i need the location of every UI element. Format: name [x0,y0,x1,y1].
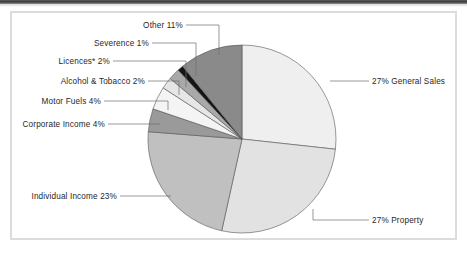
label-alcohol-tobacco: Alcohol & Tobacco 2% [61,77,145,86]
pie-chart: 27% General Sales 27% Property Individua… [0,0,467,256]
label-corporate-income: Corporate Income 4% [23,120,106,129]
label-motor-fuels: Motor Fuels 4% [42,97,101,106]
pie-slice-group [148,45,336,233]
label-licences: Licences* 2% [59,57,110,66]
leader-line-property [313,209,369,220]
chart-screenshot: 27% General Sales 27% Property Individua… [0,0,467,256]
label-property: 27% Property [372,216,424,225]
label-general-sales: 27% General Sales [372,77,445,86]
label-other: Other 11% [143,21,183,30]
label-individual-income: Individual Income 23% [31,192,117,201]
label-severence: Severence 1% [94,39,149,48]
pie-slice-general-sales [242,45,336,149]
